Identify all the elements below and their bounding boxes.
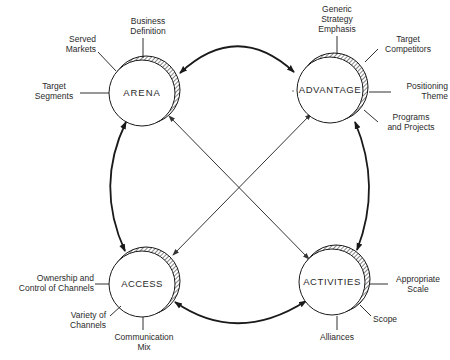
factor-generic-strategy-emphasis: Generic Strategy Emphasis xyxy=(307,4,367,34)
factor-positioning-theme: Positioning Theme xyxy=(388,81,448,101)
diagram-graphics xyxy=(0,0,450,360)
factor-programs-and-projects: Programs and Projects xyxy=(378,112,444,132)
factor-ownership-control-channels: Ownership and Control of Channels xyxy=(2,273,94,293)
edge-activities-access xyxy=(175,301,306,323)
factor-appropriate-scale: Appropriate Scale xyxy=(388,274,448,294)
factor-variety-of-channels: Variety of Channels xyxy=(56,310,106,330)
factor-communication-mix: Communication Mix xyxy=(108,332,180,352)
factor-served-markets: Served Markets xyxy=(48,34,96,54)
edge-arena-advantage xyxy=(180,46,294,73)
node-advantage xyxy=(292,36,391,123)
node-title-arena: ARENA xyxy=(102,87,182,98)
factor-target-segments: Target Segments xyxy=(30,81,78,101)
edge-advantage-activities xyxy=(355,122,369,250)
factor-scope: Scope xyxy=(373,314,413,324)
edge-access-arena xyxy=(110,122,126,251)
node-title-access: ACCESS xyxy=(102,278,182,289)
edge-access-advantage xyxy=(173,114,311,255)
factor-business-definition: Business Definition xyxy=(118,16,178,36)
strategy-diagram: ARENA ADVANTAGE ACCESS ACTIVITIES Busine… xyxy=(0,0,450,360)
node-title-activities: ACTIVITIES xyxy=(292,276,372,287)
node-title-advantage: ADVANTAGE xyxy=(290,84,370,95)
factor-target-competitors: Target Competitors xyxy=(378,34,438,54)
factor-alliances: Alliances xyxy=(307,332,367,342)
